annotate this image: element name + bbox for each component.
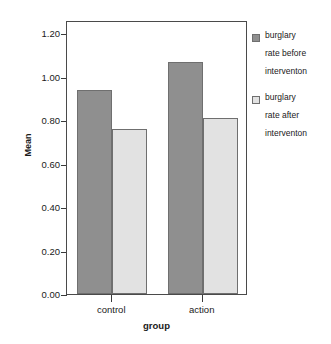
plot-frame <box>66 21 247 295</box>
y-axis-tick-label: 0.20 <box>26 247 60 257</box>
bar-control-series2 <box>112 129 147 294</box>
y-axis-tick-label: 1.20 <box>26 29 60 39</box>
y-axis-tick-label: 0.60 <box>26 160 60 170</box>
x-axis-title: group <box>66 320 247 331</box>
bar-action-series1 <box>168 62 203 294</box>
y-axis-tick-labels: 0.000.200.400.600.801.001.20 <box>26 0 60 344</box>
y-axis-tick-label: 0.80 <box>26 116 60 126</box>
legend-swatch-icon <box>252 96 260 104</box>
legend-entry: burglary rate before interventon <box>252 24 331 78</box>
legend-swatch-icon <box>252 34 260 42</box>
legend-label: burglary rate before interventon <box>265 30 307 76</box>
x-axis-tick-mark <box>111 295 112 302</box>
plot-area <box>67 22 246 294</box>
x-axis-tick-label: control <box>71 304 151 315</box>
bar-chart: Mean 0.000.200.400.600.801.001.20 contro… <box>0 0 331 344</box>
y-axis-tick-label: 1.00 <box>26 73 60 83</box>
y-axis-tick-label: 0.40 <box>26 203 60 213</box>
chart-legend: burglary rate before interventonburglary… <box>252 24 331 148</box>
y-axis-tick-mark <box>61 295 67 296</box>
bar-action-series2 <box>203 118 238 294</box>
x-axis-tick-mark <box>202 295 203 302</box>
x-axis-tick-label: action <box>162 304 242 315</box>
bar-control-series1 <box>77 90 112 294</box>
legend-entry: burglary rate after interventon <box>252 86 331 140</box>
y-axis-tick-label: 0.00 <box>26 290 60 300</box>
legend-label: burglary rate after interventon <box>265 92 307 138</box>
